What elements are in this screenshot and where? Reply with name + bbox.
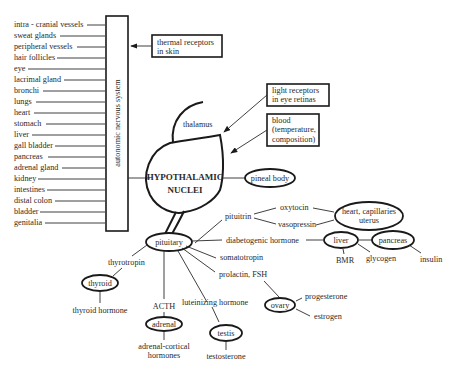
pituitary-label: pituitary <box>155 238 184 247</box>
light-label-1: light receptors <box>272 86 319 95</box>
organ-label: bladder <box>14 207 39 216</box>
organ-label: liver <box>14 130 29 139</box>
thyrotropin-label: thyrotropin <box>108 258 145 267</box>
insulin-label: insulin <box>420 255 442 264</box>
organ-label: adrenal gland <box>14 163 58 172</box>
testosterone-label: testosterone <box>206 352 245 361</box>
light-label-2: in eye retinas <box>272 95 316 104</box>
blood-label-3: composition) <box>272 135 315 144</box>
glycogen-label: glycogen <box>366 254 396 263</box>
organ-label: kidney <box>14 174 37 183</box>
hypothalamus-label-2: NUCLEI <box>167 185 203 195</box>
ans-label: autonomic nervous system <box>113 79 122 167</box>
thermal-label-1: thermal receptors <box>157 38 214 47</box>
pancreas-label: pancreas <box>379 236 408 245</box>
organ-label: pancreas <box>14 152 43 161</box>
pineal-label: pineal body <box>251 174 290 183</box>
somatotropin-label: somatotropin <box>220 253 263 262</box>
thyroid-hormone-label: thyroid hormone <box>73 306 128 315</box>
organ-label: hair follicles <box>14 53 55 62</box>
adrenal-hormones-label-2: hormones <box>148 351 180 360</box>
adrenal-label: adrenal <box>152 320 177 329</box>
light-arrow <box>224 95 267 132</box>
prolactin-label: prolactin, FSH <box>219 270 267 279</box>
organ-label: sweat glands <box>14 31 56 40</box>
luteinizing-label: luteinizing hormone <box>182 298 249 307</box>
bmr-label: BMR <box>336 256 355 265</box>
organ-label: lacrimal gland <box>14 75 61 84</box>
organ-label: eye <box>14 64 26 73</box>
target-label-2: uterus <box>359 216 379 225</box>
ovary-label: ovary <box>271 301 291 310</box>
organ-label: stomach <box>14 119 41 128</box>
liver-label: liver <box>333 236 348 245</box>
organ-label: gall bladder <box>14 141 53 150</box>
testis-label: testis <box>218 329 235 338</box>
blood-arrow <box>231 130 267 153</box>
progesterone-label: progesterone <box>305 292 348 301</box>
pituitrin-label: pituitrin <box>225 212 251 221</box>
thyroid-label: thyroid <box>88 279 112 288</box>
organ-list: intra - cranial vessels sweat glands per… <box>14 20 105 227</box>
blood-label-1: blood <box>272 116 291 125</box>
estrogen-label: estrogen <box>314 312 342 321</box>
target-label-1: heart, capillaries <box>342 207 396 216</box>
diabetogenic-label: diabetogenic hormone <box>226 236 299 245</box>
organ-label: intestines <box>14 185 45 194</box>
organ-label: peripheral vessels <box>14 42 72 51</box>
vasopressin-label: vasopressin <box>278 220 316 229</box>
organ-label: bronchi <box>14 86 40 95</box>
organ-label: lungs <box>14 97 32 106</box>
organ-label: distal colon <box>14 196 52 205</box>
hypothalamus-label-1: HYPOTHALAMIC <box>147 172 224 182</box>
blood-label-2: (temperature, <box>272 125 316 134</box>
organ-label: intra - cranial vessels <box>14 20 83 29</box>
hypothalamus-diagram: intra - cranial vessels sweat glands per… <box>0 0 456 375</box>
adrenal-hormones-label-1: adrenal-cortical <box>138 342 190 351</box>
thalamus-label: thalamus <box>183 120 213 129</box>
acth-label: ACTH <box>153 302 175 311</box>
thermal-label-2: in skin <box>157 47 179 56</box>
oxytocin-label: oxytocin <box>280 203 309 212</box>
organ-label: heart <box>14 108 31 117</box>
organ-label: genitalia <box>14 218 43 227</box>
